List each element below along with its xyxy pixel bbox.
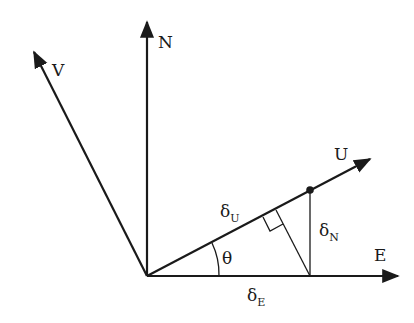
label-delta-n: δN [319,222,339,243]
label-delta-e: δE [247,287,265,308]
label-v: V [52,62,64,79]
label-delta-u: δU [220,203,240,224]
v-axis-arrow [34,52,147,276]
label-theta: θ [222,250,232,267]
label-n: N [158,34,173,51]
point-dot [306,186,314,194]
u-axis-arrow [147,159,370,276]
label-u: U [334,146,348,163]
vector-diagram: N V U E δU δN δE θ [0,0,414,323]
label-e: E [374,247,386,264]
theta-arc [212,243,219,276]
diagram-graphics [0,0,414,323]
perpendicular-line [276,210,310,276]
